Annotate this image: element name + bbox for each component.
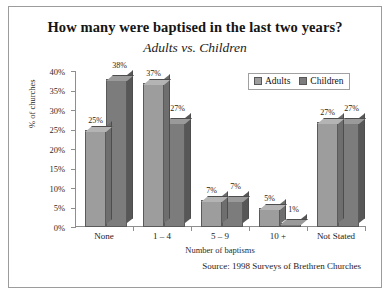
x-axis-category-label: 5 – 9: [211, 231, 229, 241]
bar-side-face: [127, 70, 133, 223]
bar-side-face: [164, 74, 170, 223]
x-axis-category-label: None: [94, 231, 114, 241]
chart-title: How many were baptised in the last two y…: [9, 19, 381, 36]
bar-adults-3[interactable]: 5%: [259, 208, 280, 228]
y-axis-tick-label: 25%: [49, 125, 65, 135]
bar-adults-2[interactable]: 7%: [201, 200, 222, 227]
bar-adults-1[interactable]: 37%: [143, 83, 164, 227]
bar-value-label: 25%: [88, 116, 103, 125]
bar-value-label: 5%: [264, 194, 275, 203]
bar-value-label: 27%: [320, 108, 335, 117]
chart-legend: Adults Children: [248, 73, 350, 90]
legend-item-adults[interactable]: Adults: [254, 76, 290, 86]
y-axis-tick-label: 15%: [49, 164, 65, 174]
bar-side-face: [106, 121, 112, 223]
chart-source: Source: 1998 Surveys of Brethren Churche…: [202, 261, 361, 271]
bar-adults-0[interactable]: 25%: [85, 130, 106, 228]
y-axis-tick: 0%: [71, 227, 76, 228]
y-axis-tick-label: 30%: [49, 106, 65, 116]
bar-side-face: [359, 113, 365, 223]
bar-front-face: [143, 83, 164, 227]
legend-label-children: Children: [310, 76, 343, 86]
y-axis-tick-label: 40%: [49, 67, 65, 77]
bar-value-label: 7%: [206, 186, 217, 195]
chart-frame: How many were baptised in the last two y…: [8, 6, 382, 288]
bar-front-face: [259, 208, 280, 228]
bar-group: 37%27%1 – 4: [133, 71, 191, 227]
x-axis-title: Number of baptisms: [75, 245, 365, 255]
bar-adults-4[interactable]: 27%: [317, 122, 338, 227]
bar-value-label: 38%: [112, 61, 127, 70]
bar-group: 7%7%5 – 9: [191, 71, 249, 227]
plot-area: 0%5%10%15%20%25%30%35%40%25%38%None37%27…: [75, 71, 365, 227]
bar-group: 25%38%None: [75, 71, 133, 227]
bar-value-label: 27%: [170, 104, 185, 113]
bar-front-face: [317, 122, 338, 227]
y-axis-tick-label: 10%: [49, 184, 65, 194]
bar-value-label: 37%: [146, 69, 161, 78]
y-axis-tick-label: 0%: [54, 223, 65, 233]
chart-subtitle: Adults vs. Children: [9, 40, 381, 56]
y-axis-tick-label: 35%: [49, 86, 65, 96]
square-marker-icon: [254, 77, 262, 85]
bar-value-label: 27%: [344, 104, 359, 113]
chart-figure: How many were baptised in the last two y…: [0, 0, 390, 299]
bar-children-3[interactable]: 1%: [280, 223, 301, 227]
bar-side-face: [185, 113, 191, 223]
bar-front-face: [201, 200, 222, 227]
bar-value-label: 1%: [288, 205, 299, 214]
square-marker-icon: [299, 77, 307, 85]
bar-side-face: [280, 199, 286, 223]
x-axis-category-label: 1 – 4: [153, 231, 171, 241]
bar-group: 27%27%Not Stated: [307, 71, 365, 227]
bar-value-label: 7%: [230, 182, 241, 191]
bar-group: 5%1%10 +: [249, 71, 307, 227]
y-axis-tick-label: 5%: [54, 203, 65, 213]
bar-side-face: [338, 113, 344, 223]
x-axis-tick: [365, 226, 366, 231]
x-axis-category-label: Not Stated: [317, 231, 355, 241]
bar-front-face: [85, 130, 106, 228]
x-axis-category-label: 10 +: [270, 231, 286, 241]
legend-item-children[interactable]: Children: [299, 76, 343, 86]
y-axis-title: % of churches: [27, 79, 37, 128]
legend-label-adults: Adults: [265, 76, 290, 86]
y-axis-tick-label: 20%: [49, 145, 65, 155]
